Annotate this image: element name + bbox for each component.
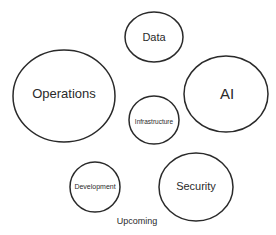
caption-upcoming: Upcoming (117, 216, 158, 226)
node-ai-label: AI (220, 85, 234, 102)
node-security-label: Security (176, 180, 216, 192)
node-infrastructure-label: Infrastructure (135, 118, 173, 125)
node-development-label: Development (74, 183, 115, 190)
node-operations-label: Operations (32, 86, 96, 101)
node-data-label: Data (142, 31, 165, 43)
